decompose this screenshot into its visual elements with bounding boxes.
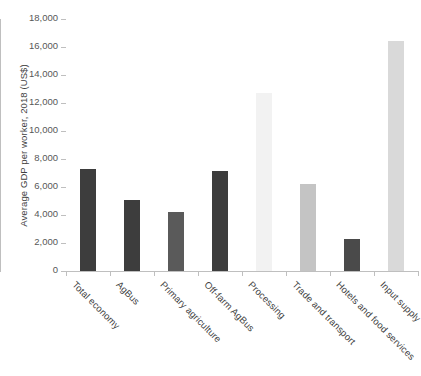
y-tick-label: 18,000 bbox=[29, 12, 58, 23]
y-axis-title: Average GDP per worker, 2018 (US$) bbox=[18, 36, 29, 256]
bar-input-supply bbox=[388, 41, 404, 271]
bar-off-farm-agbus bbox=[212, 171, 228, 271]
x-tick-mark bbox=[242, 271, 243, 276]
y-tick-mark bbox=[61, 103, 66, 104]
bar-processing bbox=[256, 93, 272, 271]
bar-chart: Average GDP per worker, 2018 (US$) 18,00… bbox=[0, 0, 421, 376]
x-axis-label: AgBus bbox=[114, 279, 142, 307]
y-tick-mark bbox=[61, 215, 66, 216]
x-tick-mark bbox=[110, 271, 111, 276]
y-tick-mark bbox=[61, 131, 66, 132]
y-tick-label: 10,000 bbox=[29, 124, 58, 135]
x-axis-label: Hotels and food services bbox=[334, 279, 417, 362]
y-tick-label: 6,000 bbox=[34, 180, 58, 191]
bar-primary-agriculture bbox=[168, 212, 184, 272]
x-tick-mark bbox=[374, 271, 375, 276]
x-tick-mark bbox=[198, 271, 199, 276]
y-tick-mark bbox=[61, 75, 66, 76]
bar-hotels-and-food-services bbox=[344, 239, 360, 271]
y-tick-label: 2,000 bbox=[34, 236, 58, 247]
y-tick-label: 12,000 bbox=[29, 96, 58, 107]
y-axis-line bbox=[0, 19, 1, 272]
y-tick-mark bbox=[61, 47, 66, 48]
x-axis-label: Processing bbox=[246, 279, 288, 321]
x-tick-mark bbox=[154, 271, 155, 276]
bar-agbus bbox=[124, 200, 140, 271]
y-tick-label: 8,000 bbox=[34, 152, 58, 163]
x-tick-mark bbox=[286, 271, 287, 276]
x-tick-mark bbox=[418, 271, 419, 276]
bar-total-economy bbox=[80, 169, 96, 271]
y-tick-mark bbox=[61, 187, 66, 188]
x-tick-mark bbox=[66, 271, 67, 276]
y-tick-label: 14,000 bbox=[29, 68, 58, 79]
y-tick-label: 4,000 bbox=[34, 208, 58, 219]
y-tick-mark bbox=[61, 19, 66, 20]
y-tick-label: 16,000 bbox=[29, 40, 58, 51]
x-axis-label: Input supply bbox=[378, 279, 421, 324]
y-tick-label: 0 bbox=[53, 264, 58, 275]
y-tick-mark bbox=[61, 159, 66, 160]
y-tick-mark bbox=[61, 243, 66, 244]
bar-trade-and-transport bbox=[300, 184, 316, 271]
x-tick-mark bbox=[330, 271, 331, 276]
